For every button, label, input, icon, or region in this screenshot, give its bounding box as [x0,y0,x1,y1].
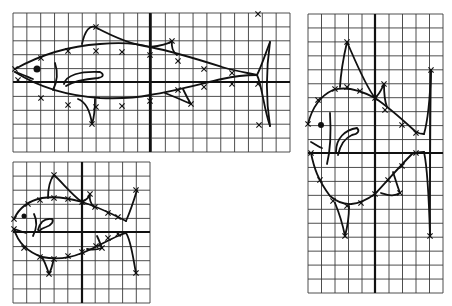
pectoral-outline [336,128,358,155]
tail-upper-outline [126,190,137,221]
pelvic-fin-outline [42,257,54,274]
tail-edge-outline [430,70,431,236]
gill-outline [327,113,331,164]
panel-bottom-left [11,162,150,303]
fish-transformation-diagram [0,0,452,306]
fish-right-deep-bodied [305,39,433,238]
tail-lower-outline [126,233,136,273]
pelvic-fin-outline [78,99,95,124]
eye [34,66,41,73]
mouth-outline [311,142,322,148]
panel-right [305,14,443,293]
panel-top [12,11,290,152]
pelvic-fin-outline [335,203,349,236]
eye [318,122,324,128]
pectoral-outline [64,72,103,86]
eye [22,214,27,219]
grid-top [13,13,290,152]
grid-bottom-left [13,162,150,303]
